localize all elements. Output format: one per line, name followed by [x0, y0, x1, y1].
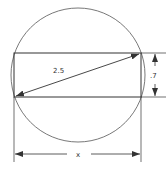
width-label: x	[76, 151, 80, 159]
diagonal-dimension-line	[16, 54, 139, 96]
diagonal-label: 2.5	[53, 67, 64, 75]
height-label: .7	[150, 72, 157, 80]
diagram-canvas: 2.5 .7 x	[0, 0, 168, 178]
